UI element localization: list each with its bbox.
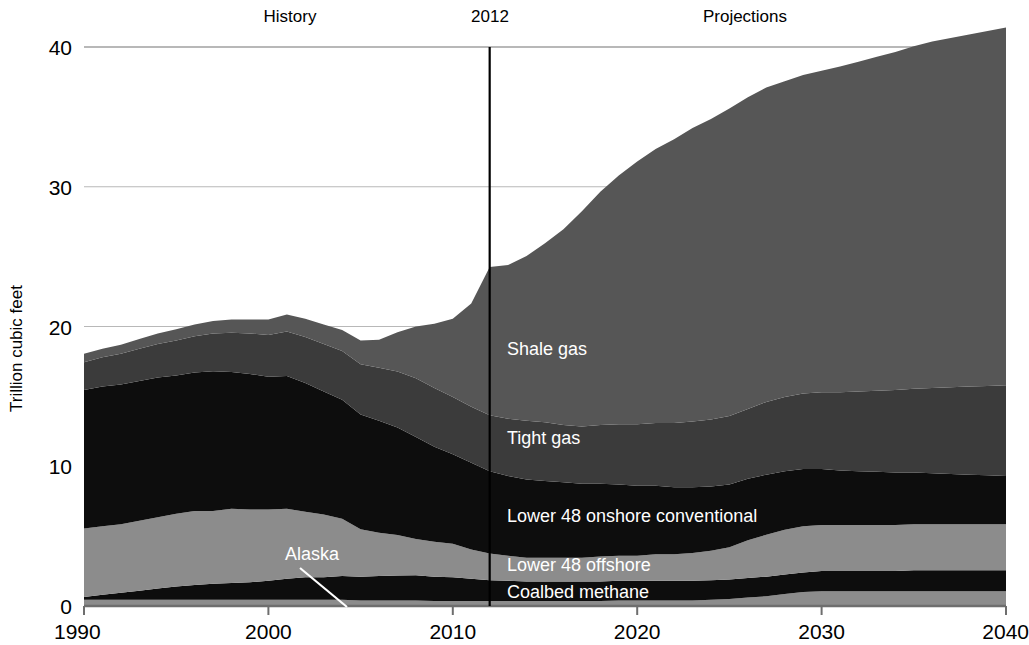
- series-label-lower48-onshore: Lower 48 onshore conventional: [507, 506, 757, 526]
- x-tick-label: 2000: [245, 620, 292, 643]
- series-label-shale-gas: Shale gas: [507, 339, 587, 359]
- history-label: History: [264, 7, 317, 26]
- x-tick-label: 1990: [54, 620, 101, 643]
- x-tick-label: 2040: [982, 620, 1029, 643]
- y-tick-label: 10: [49, 455, 72, 478]
- series-label-tight-gas: Tight gas: [507, 428, 580, 448]
- y-axis-title: Trillion cubic feet: [7, 285, 26, 412]
- x-tick-label: 2020: [614, 620, 661, 643]
- projections-label: Projections: [703, 7, 787, 26]
- stacked-area-chart: 403020100199020002010202020302040Trillio…: [0, 0, 1029, 645]
- y-tick-label: 30: [49, 176, 72, 199]
- x-tick-label: 2030: [798, 620, 845, 643]
- series-label-coalbed-methane: Coalbed methane: [507, 582, 649, 602]
- year-divider-label: 2012: [471, 7, 509, 26]
- x-tick-label: 2010: [429, 620, 476, 643]
- y-tick-label: 40: [49, 36, 72, 59]
- y-tick-label: 20: [49, 316, 72, 339]
- y-tick-label: 0: [60, 595, 72, 618]
- chart-container: 403020100199020002010202020302040Trillio…: [0, 0, 1029, 645]
- series-label-lower48-offshore: Lower 48 offshore: [507, 555, 651, 575]
- series-label-alaska: Alaska: [285, 544, 340, 564]
